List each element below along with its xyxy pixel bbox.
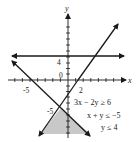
tick-label-y-4: 4 (57, 58, 61, 67)
inequality-graph: y x -5 2 4 0 -5 3x − 2y ≥ 6 x + y ≤ −5 y… (0, 0, 137, 142)
y-axis-label: y (64, 4, 69, 13)
tick-label-x-2: 2 (79, 86, 83, 95)
inequality-1-label: 3x − 2y ≥ 6 (74, 98, 111, 107)
inequality-3-label: y ≤ 4 (101, 123, 117, 132)
x-axis (8, 78, 126, 82)
tick-label-y-neg5: -5 (47, 107, 53, 116)
tick-label-y-0: 0 (59, 71, 63, 80)
inequality-2-label: x + y ≤ −5 (87, 111, 120, 120)
x-axis-label: x (127, 76, 132, 85)
tick-label-x-neg5: -5 (23, 86, 29, 95)
